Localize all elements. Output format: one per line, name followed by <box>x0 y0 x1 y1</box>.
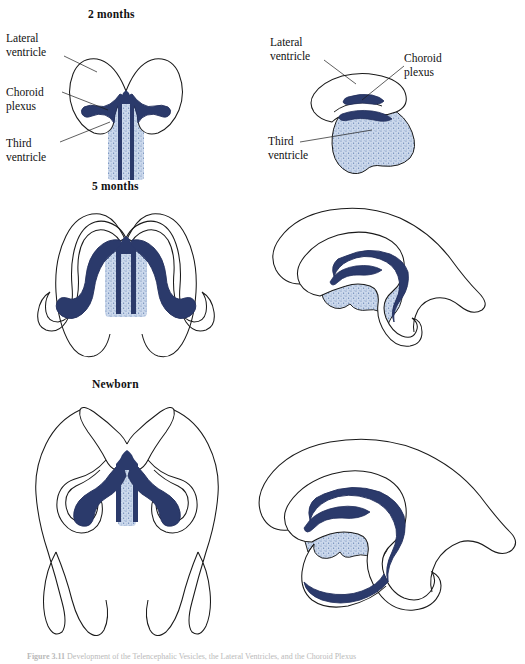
label-lateral-ventricle-sagittal: Lateral ventricle <box>270 36 310 63</box>
label-third-ventricle-sagittal: Third ventricle <box>268 135 308 162</box>
lateral-ventricle-outline <box>273 208 485 346</box>
label-choroid-plexus-coronal: Choroid plexus <box>6 86 44 113</box>
figure-caption: Figure 3.11 Development of the Telenceph… <box>27 652 497 663</box>
panel-five-months-sagittal <box>273 208 485 346</box>
label-third-ventricle-coronal: Third ventricle <box>6 137 46 164</box>
figure-caption-number: Figure 3.11 <box>27 652 65 661</box>
panel-newborn-sagittal <box>259 439 515 610</box>
panel-two-months-sagittal <box>300 60 415 174</box>
panel-five-months-coronal <box>38 214 215 357</box>
third-ventricle-shape <box>105 247 147 317</box>
panel-title-newborn: Newborn <box>92 378 139 390</box>
label-choroid-plexus-sagittal: Choroid plexus <box>404 52 442 79</box>
figure-caption-text: Development of the Telencephalic Vesicle… <box>67 652 356 661</box>
panel-two-months-coronal <box>60 56 183 180</box>
label-lateral-ventricle-coronal: Lateral ventricle <box>6 32 46 59</box>
figure-illustration <box>0 0 525 664</box>
panel-title-two-months: 2 months <box>88 8 135 20</box>
panel-newborn-coronal <box>36 407 219 635</box>
lateral-ventricle-outline <box>259 439 515 610</box>
panel-title-five-months: 5 months <box>92 180 139 192</box>
